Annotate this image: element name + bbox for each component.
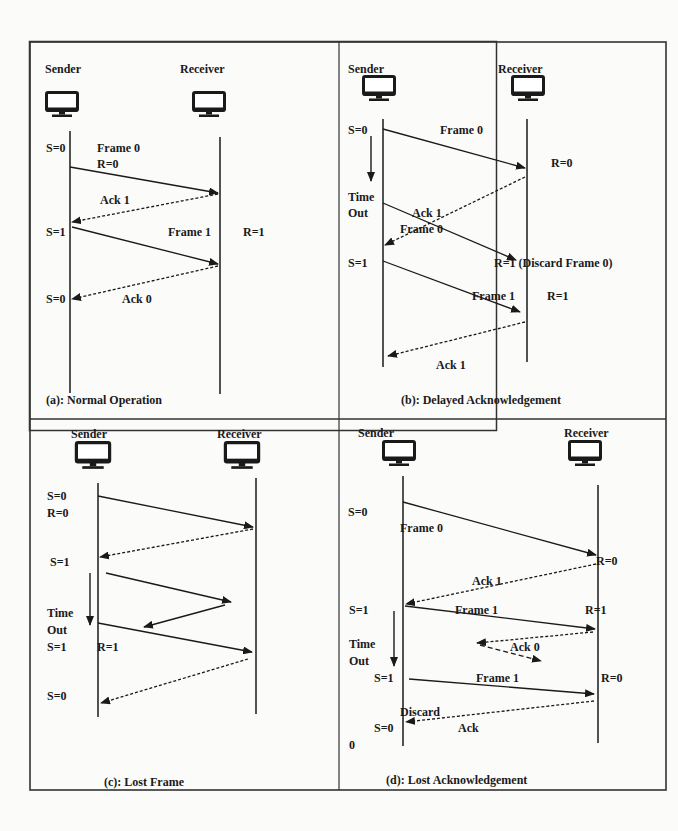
ack1-arrow	[72, 194, 218, 222]
frame1-label: Frame 1	[168, 225, 211, 239]
receiver-monitor-icon	[225, 443, 258, 469]
sender-label: Sender	[71, 427, 108, 441]
state-s0-final: S=0	[46, 292, 66, 306]
ack1-label: Ack 1	[472, 574, 502, 588]
panel-d-lost-acknowledgement: Sender Receiver S=0 Frame 0 R=0 Ack 1 S=…	[348, 426, 623, 787]
timeout-label-1: Time	[349, 637, 376, 651]
frame0-label: Frame 0	[440, 123, 483, 137]
timeout-label-1: Time	[47, 606, 74, 620]
receiver-monitor-icon	[513, 77, 544, 102]
receiver-label: Receiver	[217, 427, 262, 441]
state-s1-retry: S=1	[374, 671, 394, 685]
state-s0: S=0	[348, 123, 368, 137]
frame0-label: Frame 0	[400, 521, 443, 535]
state-r1: R=1	[585, 603, 607, 617]
frame1-arrow	[405, 606, 595, 629]
state-r0-final: R=0	[601, 671, 623, 685]
sender-monitor-icon	[364, 77, 395, 102]
receiver-label: Receiver	[498, 62, 543, 76]
panel-a-normal-operation: Sender Receiver S=0 Frame 0 R=0 Ack 1 S=…	[45, 62, 265, 407]
state-r1: R=1	[97, 640, 119, 654]
panel-caption: (b): Delayed Acknowledgement	[401, 393, 561, 407]
panel-b-delayed-acknowledgement: Sender Receiver S=0 Frame 0 R=0 Time Out…	[348, 62, 612, 407]
state-s0-final: S=0	[47, 689, 67, 703]
state-s1: S=1	[50, 555, 70, 569]
ack-label: Ack	[458, 721, 479, 735]
ack1-label: Ack 1	[100, 193, 130, 207]
discard-label: R=1 (Discard Frame 0)	[494, 256, 612, 270]
receiver-label: Receiver	[180, 62, 225, 76]
stray-zero-label: 0	[349, 738, 355, 752]
receiver-monitor-icon	[570, 442, 601, 467]
frame0-arrow	[70, 167, 218, 193]
ack1-final-label: Ack 1	[436, 358, 466, 372]
receiver-label: Receiver	[564, 426, 609, 440]
state-s1: S=1	[46, 225, 66, 239]
state-r1: R=1	[547, 289, 569, 303]
state-r1: R=1	[243, 225, 265, 239]
lost-frame1-return-arrow	[144, 605, 225, 627]
frame0-arrow	[98, 496, 253, 527]
state-s1: S=1	[349, 603, 369, 617]
sender-monitor-icon	[47, 93, 78, 118]
sender-label: Sender	[358, 426, 395, 440]
ack1-arrow	[388, 322, 525, 356]
state-s0: S=0	[47, 489, 67, 503]
timeout-label-2: Out	[348, 206, 368, 220]
discard-label: Discard	[400, 705, 440, 719]
ack0-label: Ack 0	[510, 640, 540, 654]
panel-caption: (c): Lost Frame	[104, 775, 185, 789]
state-r0: R=0	[596, 554, 618, 568]
frame0-retransmit-label: Frame 0	[400, 222, 443, 236]
state-s0: S=0	[46, 141, 66, 155]
ack0-arrow	[101, 659, 248, 703]
frame1-label: Frame 1	[472, 289, 515, 303]
lost-frame1-arrow	[106, 573, 231, 602]
sender-label: Sender	[348, 62, 385, 76]
receiver-monitor-icon	[194, 93, 225, 118]
ack0-label: Ack 0	[122, 292, 152, 306]
panel-caption: (d): Lost Acknowledgement	[386, 773, 527, 787]
state-s0: S=0	[348, 505, 368, 519]
state-s1-retry: S=1	[47, 640, 67, 654]
frame1-retransmit-arrow	[98, 623, 252, 652]
state-r0: R=0	[47, 506, 69, 520]
state-s1: S=1	[348, 256, 368, 270]
timeout-label-2: Out	[349, 654, 369, 668]
sender-monitor-icon	[76, 443, 109, 469]
panel-caption: (a): Normal Operation	[46, 393, 162, 407]
state-r0: R=0	[97, 157, 119, 171]
state-r0: R=0	[551, 156, 573, 170]
diagram-canvas: Sender Receiver S=0 Frame 0 R=0 Ack 1 S=…	[0, 0, 678, 831]
sender-label: Sender	[45, 62, 82, 76]
frame0-label: Frame 0	[97, 141, 140, 155]
ack-arrow	[100, 529, 253, 557]
frame1-retry-label: Frame 1	[476, 671, 519, 685]
panel-c-lost-frame: Sender Receiver S=0 R=0 S=1 Time Out S=1…	[47, 427, 262, 789]
timeout-label-1: Time	[348, 190, 375, 204]
timeout-label-2: Out	[47, 623, 67, 637]
state-s0-final: S=0	[374, 721, 394, 735]
sender-monitor-icon	[384, 442, 415, 467]
